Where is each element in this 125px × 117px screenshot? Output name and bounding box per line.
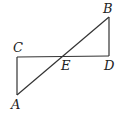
point-label-c: C <box>13 40 23 55</box>
segment-cd <box>17 56 109 57</box>
point-label-b: B <box>102 1 113 16</box>
point-label-d: D <box>103 58 115 73</box>
point-label-e: E <box>60 58 71 73</box>
point-label-a: A <box>10 97 20 112</box>
geometry-diagram: B C E D A <box>0 0 125 117</box>
